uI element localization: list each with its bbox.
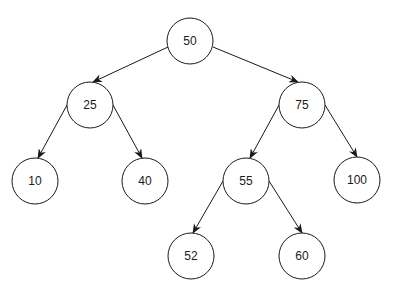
tree-node-52: 52 [168,233,214,279]
edge-arrow-n55-n52 [193,181,223,233]
edge-arrow-n75-n55 [250,105,279,158]
nodes-layer: 5025751040551005260 [12,18,380,279]
edges-layer [38,47,357,233]
edge-arrow-n25-n10 [38,105,67,158]
node-label: 10 [28,174,42,188]
tree-node-75: 75 [279,82,325,128]
tree-node-60: 60 [279,233,325,279]
node-label: 75 [295,98,309,112]
tree-node-10: 10 [12,158,58,204]
edge-arrow-n50-n25 [93,47,168,82]
node-label: 100 [347,173,367,187]
node-label: 40 [138,174,152,188]
edge-arrow-n75-n100 [325,105,357,157]
edge-arrow-n25-n40 [113,105,142,158]
tree-node-55: 55 [223,158,269,204]
tree-node-100: 100 [334,157,380,203]
tree-node-40: 40 [122,158,168,204]
node-label: 52 [184,249,198,263]
node-label: 55 [239,174,253,188]
tree-node-50: 50 [167,18,213,64]
node-label: 50 [183,34,197,48]
edge-arrow-n50-n75 [213,47,298,82]
edge-arrow-n55-n60 [269,181,302,233]
node-label: 60 [295,249,309,263]
binary-tree-diagram: 5025751040551005260 [0,0,395,295]
node-label: 25 [83,98,97,112]
tree-node-25: 25 [67,82,113,128]
